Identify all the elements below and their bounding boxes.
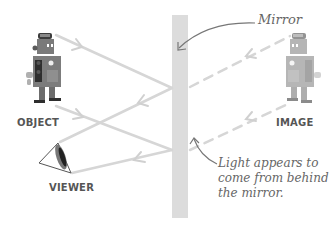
object-robot-icon xyxy=(26,33,61,103)
mirror-pointer-arrow xyxy=(179,23,255,48)
virtual-ray-arrowheads xyxy=(246,49,256,121)
virtual-ray-top xyxy=(190,36,290,87)
ray-object-bottom-to-mirror xyxy=(56,106,172,150)
virtual-ray-bottom xyxy=(190,103,290,150)
ray-arrowheads xyxy=(72,39,148,162)
ray-mirror-to-viewer-bottom xyxy=(72,150,172,173)
ray-object-top-to-mirror xyxy=(56,35,172,88)
light-rays xyxy=(56,35,172,173)
image-label: IMAGE xyxy=(276,117,313,128)
mirror-label: Mirror xyxy=(258,12,302,27)
mirror-diagram: OBJECT IMAGE VIEWER Mirror Light appears… xyxy=(0,0,329,230)
mirror-bar xyxy=(172,15,188,218)
viewer-label: VIEWER xyxy=(49,182,94,193)
object-label: OBJECT xyxy=(17,117,59,128)
virtual-rays xyxy=(190,36,290,150)
note-line-3: the mirror. xyxy=(218,186,329,201)
note-line-2: come from behind xyxy=(218,171,329,186)
image-robot-icon xyxy=(286,33,321,103)
note-line-1: Light appears to xyxy=(218,156,329,171)
note-text: Light appears to come from behind the mi… xyxy=(218,156,329,201)
viewer-eye-icon xyxy=(39,143,71,173)
